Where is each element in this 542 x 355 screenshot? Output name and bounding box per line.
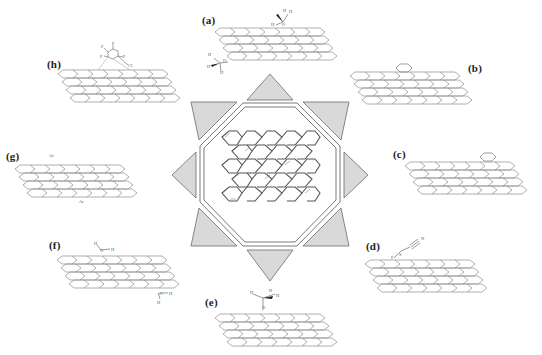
triangle-right: [344, 152, 368, 198]
atom-label: O: [100, 248, 103, 253]
panel-h-sheet: [58, 45, 180, 102]
atom-label: H: [283, 8, 286, 13]
figure-canvas: (a) (b) (c) (d) (e) (f) (g) (h): [0, 0, 542, 355]
atom-label: H: [220, 70, 223, 75]
atom-label: F: [123, 54, 126, 59]
panel-b-sheet: [350, 64, 472, 104]
atom-label: O: [223, 58, 226, 63]
atom-label: Cl: [128, 63, 132, 68]
atom-label: H: [289, 9, 292, 14]
atom-label: H: [276, 293, 279, 298]
atom-label: O: [159, 291, 162, 296]
atom-label: F: [391, 255, 394, 260]
atom-label: N: [421, 236, 424, 241]
atom-label: O: [282, 22, 285, 27]
panel-e-sheet: [215, 294, 337, 346]
atom-label: S: [399, 252, 402, 257]
panel-d-sheet: [365, 239, 487, 292]
atom-label: H: [111, 247, 114, 252]
atom-label: H: [250, 290, 253, 295]
atom-label: H: [94, 241, 97, 246]
triangle-top: [247, 74, 293, 100]
panel-c-sheet: [405, 153, 527, 194]
atom-label: F: [112, 41, 115, 46]
panel-g-sheet: [15, 165, 137, 197]
atom-label: H: [207, 64, 210, 69]
atom-label: H: [271, 22, 274, 27]
atom-label: H: [269, 288, 272, 293]
atom-label: H: [157, 300, 160, 305]
diagram-graphics: [0, 0, 542, 355]
atom-label: Ar: [79, 199, 84, 204]
central-frame: [200, 103, 340, 246]
atom-label: H: [169, 291, 172, 296]
triangle-left: [172, 152, 196, 198]
atom-label: Ar: [49, 153, 54, 158]
atom-label: O: [262, 305, 265, 310]
atom-label: H: [208, 52, 211, 57]
atom-label: F: [101, 44, 104, 49]
triangle-bottom: [247, 250, 293, 281]
atom-label: F: [100, 54, 103, 59]
